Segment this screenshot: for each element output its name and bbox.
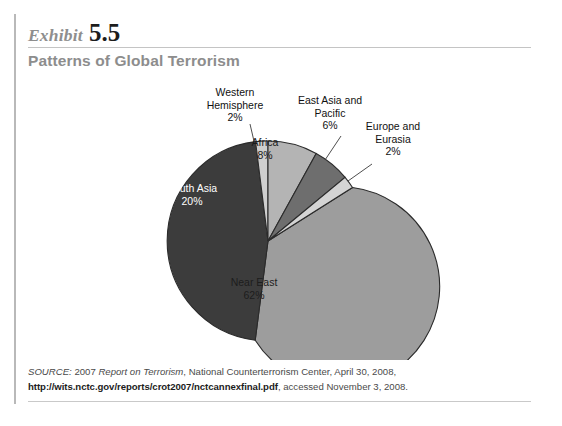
exhibit-label: Exhibit xyxy=(28,25,83,45)
source-note: SOURCE: 2007 Report on Terrorism, Nation… xyxy=(28,364,534,394)
header-divider xyxy=(28,47,531,48)
slice-label-africa: Africa 8% xyxy=(229,136,301,161)
source-url-line-1[interactable]: http://wits.nctc.gov/reports/ xyxy=(28,381,152,392)
exhibit-header: Exhibit5.5 xyxy=(28,18,533,48)
slice-label-south-asia: South Asia 20% xyxy=(146,182,238,207)
source-url-line-2[interactable]: crot2007/nctcannexfinal.pdf xyxy=(152,381,278,392)
leader-line-east-asia-pacific xyxy=(325,136,341,160)
slice-label-near-east: Near East 62% xyxy=(208,276,300,301)
source-part-1: 2007 xyxy=(72,366,99,377)
exhibit-heading: Exhibit5.5 xyxy=(28,18,533,48)
pie-slice-south-asia xyxy=(167,142,268,341)
pie-chart: Western Hemisphere 2% East Asia and Paci… xyxy=(28,80,533,360)
exhibit-number: 5.5 xyxy=(89,19,120,46)
source-part-2: , National Counterterrorism Center, Apri… xyxy=(183,366,396,377)
left-vertical-rule xyxy=(14,14,16,404)
page-title: Patterns of Global Terrorism xyxy=(28,52,240,70)
source-part-3: , accessed November 3, 2008. xyxy=(278,381,408,392)
footer-divider xyxy=(28,401,531,402)
callout-europe-eurasia: Europe and Eurasia 2% xyxy=(350,120,436,158)
exhibit-figure: Exhibit5.5 Patterns of Global Terrorism xyxy=(0,0,562,426)
leader-line-europe-eurasia xyxy=(348,164,372,181)
source-keyword: SOURCE: xyxy=(28,366,72,377)
callout-western-hemisphere: Western Hemisphere 2% xyxy=(189,86,281,124)
source-report-title: Report on Terrorism xyxy=(98,366,183,377)
